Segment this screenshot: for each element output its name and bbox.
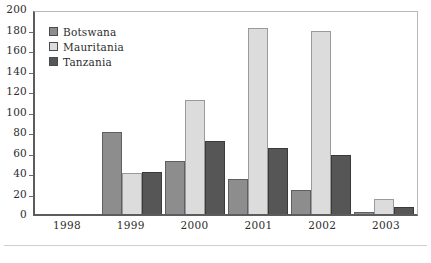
y-axis-tick-label: 100 bbox=[6, 106, 27, 118]
y-axis-tick-label: 180 bbox=[6, 24, 27, 36]
legend-swatch-icon bbox=[49, 42, 58, 51]
bar-group-2000 bbox=[163, 12, 226, 214]
x-axis-label-2001: 2001 bbox=[226, 219, 290, 231]
legend-item-mauritania: Mauritania bbox=[49, 40, 124, 53]
bar-mauritania-2003 bbox=[374, 199, 394, 214]
bar-botswana-2003 bbox=[354, 212, 374, 214]
bar-mauritania-2002 bbox=[311, 31, 331, 214]
x-axis: 199819992000200120022003 bbox=[35, 219, 418, 231]
legend-item-label: Tanzania bbox=[63, 56, 112, 68]
bar-mauritania-1999 bbox=[122, 173, 142, 214]
bar-group-2003 bbox=[353, 12, 416, 214]
legend-swatch-icon bbox=[49, 57, 58, 66]
legend-swatch-icon bbox=[49, 27, 58, 36]
y-axis-tick-label: 60 bbox=[13, 147, 27, 159]
x-axis-label-1999: 1999 bbox=[99, 219, 163, 231]
bar-tanzania-2001 bbox=[268, 148, 288, 214]
x-axis-label-2002: 2002 bbox=[290, 219, 354, 231]
y-axis: 200180160140120100806040200 bbox=[0, 11, 33, 216]
bar-tanzania-1999 bbox=[142, 172, 162, 214]
y-axis-tick-label: 40 bbox=[13, 167, 27, 179]
bar-group-2001 bbox=[227, 12, 290, 214]
legend-item-tanzania: Tanzania bbox=[49, 55, 124, 68]
bar-botswana-2001 bbox=[228, 179, 248, 214]
y-axis-tick-label: 160 bbox=[6, 44, 27, 56]
y-axis-tick-label: 140 bbox=[6, 65, 27, 77]
legend-item-label: Mauritania bbox=[63, 41, 124, 53]
bar-tanzania-2003 bbox=[394, 207, 414, 214]
bar-botswana-2002 bbox=[291, 190, 311, 214]
x-axis-label-2003: 2003 bbox=[354, 219, 418, 231]
bar-chart: 200180160140120100806040200 BotswanaMaur… bbox=[0, 0, 431, 263]
y-axis-tick-label: 200 bbox=[6, 3, 27, 15]
x-axis-label-1998: 1998 bbox=[35, 219, 99, 231]
bar-botswana-1999 bbox=[102, 132, 122, 214]
y-axis-tick-label: 80 bbox=[13, 126, 27, 138]
legend-item-botswana: Botswana bbox=[49, 25, 124, 38]
legend-item-label: Botswana bbox=[63, 26, 117, 38]
chart-legend: BotswanaMauritaniaTanzania bbox=[49, 25, 124, 68]
bar-mauritania-2000 bbox=[185, 100, 205, 214]
bar-group-2002 bbox=[290, 12, 353, 214]
bar-botswana-2000 bbox=[165, 161, 185, 214]
bar-tanzania-2002 bbox=[331, 155, 351, 214]
bar-tanzania-2000 bbox=[205, 141, 225, 214]
bar-mauritania-2001 bbox=[248, 28, 268, 214]
x-axis-label-2000: 2000 bbox=[163, 219, 227, 231]
y-axis-tick-label: 120 bbox=[6, 85, 27, 97]
bottom-divider bbox=[4, 245, 427, 246]
y-axis-tick-label: 0 bbox=[20, 208, 27, 220]
y-axis-tick-label: 20 bbox=[13, 188, 27, 200]
